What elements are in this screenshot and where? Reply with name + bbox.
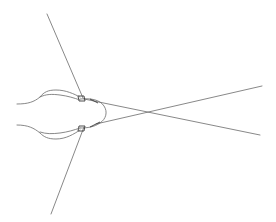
hand-lower-inner (40, 128, 80, 134)
hand-upper-inner (40, 94, 80, 100)
lower-rod-line (51, 127, 84, 214)
line-drawing (0, 0, 276, 222)
lower-binding (90, 122, 100, 127)
diagram-canvas (0, 0, 276, 222)
hand-lower-outline (17, 125, 80, 139)
fork-curve (80, 99, 106, 128)
crossing-line-upper-to-lower-right (84, 99, 260, 135)
upper-rod-line (47, 14, 83, 98)
